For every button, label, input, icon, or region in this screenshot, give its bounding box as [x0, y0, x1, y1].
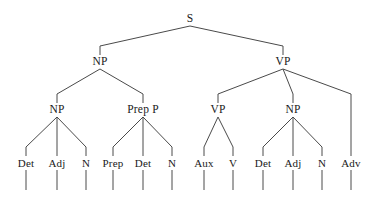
- edge-np1-to-n-diagonal: [57, 117, 86, 147]
- node-label-leaf-aux-6: Aux: [194, 158, 214, 169]
- edge-vp-to-np-diagonal: [283, 69, 293, 94]
- node-label-l3-np-3: NP: [285, 104, 300, 116]
- node-label-l3-vp-2: VP: [210, 104, 225, 116]
- edge-np-to-np-diagonal: [57, 69, 100, 94]
- node-label-leaf-det-4: Det: [135, 158, 151, 169]
- edge-vp2-to-v-diagonal: [218, 117, 233, 147]
- node-label-leaf-n-5: N: [168, 158, 176, 169]
- node-label-leaf-adj-1: Adj: [48, 158, 65, 169]
- node-label-leaf-prep-3: Prep: [103, 158, 124, 169]
- edge-vp-to-vp-diagonal: [218, 69, 283, 94]
- edge-np2-to-det-diagonal: [263, 117, 293, 147]
- node-label-l2-vp-1: VP: [275, 56, 290, 68]
- tree-edge-group: [26, 26, 351, 156]
- node-label-leaf-n-2: N: [82, 158, 90, 169]
- node-label-l3-np-0: NP: [49, 104, 64, 116]
- node-label-l3-prep-p-1: Prep P: [127, 104, 159, 116]
- node-label-leaf-n-10: N: [318, 158, 326, 169]
- node-label-leaf-adj-9: Adj: [284, 158, 301, 169]
- syntax-tree-figure: SNPVPNPPrep PVPNPDetAdjNPrepDetNAuxVDetA…: [0, 0, 371, 206]
- edge-s-to-vp-1-diagonal: [190, 26, 283, 46]
- node-label-leaf-adv-11: Adv: [341, 158, 361, 169]
- node-label-leaf-det-0: Det: [18, 158, 34, 169]
- node-label-leaf-v-7: V: [229, 158, 237, 169]
- node-label-leaf-det-8: Det: [255, 158, 271, 169]
- edge-prepp-to-prep-diagonal: [113, 117, 143, 147]
- edge-s-to-np-0-diagonal: [100, 26, 190, 46]
- node-label-l2-np-0: NP: [92, 56, 107, 68]
- edge-prepp-to-n-diagonal: [143, 117, 172, 147]
- edge-np1-to-det-diagonal: [26, 117, 57, 147]
- node-label-s: S: [187, 13, 194, 25]
- edge-np2-to-n-diagonal: [293, 117, 322, 147]
- edge-vp-to-adv-diagonal: [283, 69, 351, 94]
- terminal-stem-group: [26, 170, 351, 190]
- edge-np-to-prepp-diagonal: [100, 69, 143, 94]
- edge-vp2-to-aux-diagonal: [204, 117, 218, 147]
